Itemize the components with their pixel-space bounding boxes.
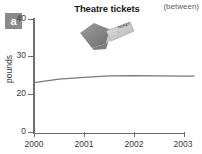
x-tick-label-2000: 2000 [17, 140, 51, 149]
y-tick-mark-40 [28, 19, 34, 20]
theatre-tickets-photo-icon: TICKET h [78, 19, 136, 52]
x-tick-mark-2000 [34, 132, 35, 137]
y-tick-label-20: 20 [0, 89, 26, 98]
chart-figure: a Theatre tickets (between) TICKET h pou… [0, 0, 202, 154]
y-tick-label-30: 30 [0, 51, 26, 60]
y-tick-label-40: 40 [0, 14, 26, 23]
y-tick-mark-30 [28, 56, 34, 57]
x-tick-mark-2003 [184, 132, 185, 137]
x-tick-mark-2001 [84, 132, 85, 137]
y-tick-label-0: 0 [0, 127, 26, 136]
x-axis-line [33, 133, 185, 135]
x-tick-label-2001: 2001 [67, 140, 101, 149]
x-tick-label-2003: 2003 [166, 140, 200, 149]
chart-title: Theatre tickets [62, 3, 152, 14]
data-series-line [34, 76, 194, 83]
x-tick-mark-2002 [134, 132, 135, 137]
y-axis-line [33, 18, 35, 134]
x-tick-label-2002: 2002 [117, 140, 151, 149]
chart-note-between: (between) [163, 2, 199, 11]
y-tick-mark-20 [28, 94, 34, 95]
